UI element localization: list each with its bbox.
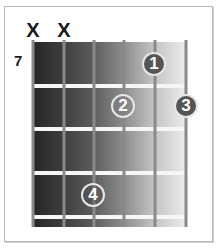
finger-2-dot: 2 bbox=[111, 94, 135, 118]
finger-3-dot: 3 bbox=[174, 94, 198, 118]
start-fret-label: 7 bbox=[14, 52, 22, 69]
string-4 bbox=[123, 40, 126, 227]
fret-line-4 bbox=[33, 215, 187, 219]
finger-4-dot: 4 bbox=[81, 183, 105, 207]
string-2 bbox=[63, 40, 66, 227]
muted-string-2-marker: X bbox=[56, 20, 72, 40]
string-6 bbox=[185, 40, 188, 227]
muted-string-1-marker: X bbox=[25, 20, 41, 40]
string-1 bbox=[32, 40, 35, 227]
finger-1-dot: 1 bbox=[142, 52, 166, 76]
fret-line-1 bbox=[33, 84, 187, 88]
fret-line-3 bbox=[33, 171, 187, 175]
fret-line-2 bbox=[33, 127, 187, 131]
